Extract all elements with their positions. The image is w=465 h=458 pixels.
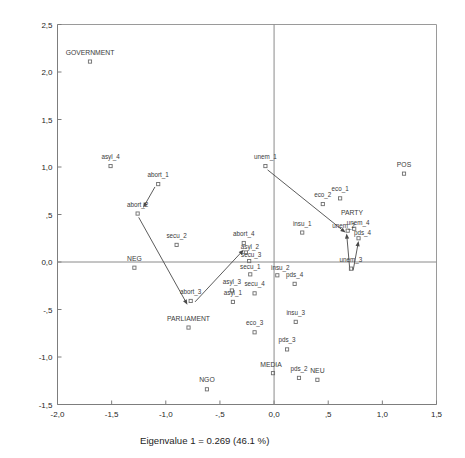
- zero-axis-lines: [58, 25, 437, 405]
- point-label-asyl_3: asyl_3: [223, 278, 242, 286]
- x-tick-label: ,5: [325, 410, 332, 419]
- x-axis-title: Eigenvalue 1 = 0.269 (46.1 %): [140, 435, 269, 446]
- axis-tick-labels: -2,0-1,5-1,0-,50,0,51,01,5-1,5-1,0-,50,0…: [39, 21, 443, 419]
- y-tick-label: -1,0: [39, 353, 53, 362]
- x-tick-label: 1,5: [431, 410, 443, 419]
- plot-frame: [58, 25, 437, 405]
- data-point-insu_3[interactable]: insu_3: [286, 309, 305, 324]
- axis-ticks: [58, 25, 437, 405]
- y-tick-label: -,5: [43, 306, 53, 315]
- point-label-secu_4: secu_4: [244, 280, 265, 288]
- y-tick-label: -1,5: [39, 401, 53, 410]
- data-point-eco_2[interactable]: eco_2: [314, 191, 332, 206]
- point-label-secu_3: secu_3: [241, 251, 262, 259]
- x-tick-label: 0,0: [269, 410, 281, 419]
- point-label-eco_1: eco_1: [332, 185, 350, 193]
- data-point-MEDIA[interactable]: MEDIA: [260, 361, 282, 375]
- point-label-NGO: NGO: [199, 376, 214, 383]
- point-label-GOVERNMENT: GOVERNMENT: [66, 49, 115, 56]
- arrow-unem_3-to-unem_2: [345, 234, 350, 271]
- x-tick-label: -,5: [215, 410, 225, 419]
- point-label-asyl_1: asyl_1: [224, 289, 243, 297]
- data-point-pds_4[interactable]: pds_4: [286, 271, 304, 286]
- point-label-PARLIAMENT: PARLIAMENT: [167, 315, 210, 322]
- x-tick-label: -2,0: [51, 410, 65, 419]
- x-tick-label: -1,0: [159, 410, 173, 419]
- point-label-MEDIA: MEDIA: [260, 361, 282, 368]
- point-label-NEU: NEU: [310, 367, 324, 374]
- point-label-asyl_2: asyl_2: [241, 243, 260, 251]
- data-point-abort_3[interactable]: abort_3: [180, 288, 202, 303]
- point-label-abort_3: abort_3: [180, 288, 202, 296]
- data-point-abort_2[interactable]: abort_2: [127, 201, 149, 216]
- x-tick-label: 1,0: [377, 410, 389, 419]
- data-point-PARTY[interactable]: PARTY: [341, 209, 363, 216]
- data-points: GOVERNMENTasyl_4abort_1abort_2secu_2NEGa…: [66, 49, 412, 391]
- point-label-POS: POS: [397, 161, 412, 168]
- data-point-NEU[interactable]: NEU: [310, 367, 324, 382]
- point-label-eco_2: eco_2: [314, 191, 332, 199]
- data-point-secu_3[interactable]: secu_3: [241, 251, 262, 263]
- point-label-pds_4b: pds_4: [354, 229, 372, 237]
- data-point-abort_1[interactable]: abort_1: [148, 171, 170, 186]
- data-point-POS[interactable]: POS: [397, 161, 412, 176]
- point-label-insu_1: insu_1: [293, 220, 312, 228]
- point-label-abort_4: abort_4: [233, 230, 255, 238]
- point-label-secu_2: secu_2: [166, 232, 187, 240]
- data-point-secu_1[interactable]: secu_1: [240, 263, 261, 276]
- data-point-pds_4b[interactable]: pds_4: [354, 229, 372, 240]
- y-tick-label: 1,0: [41, 163, 53, 172]
- correspondence-analysis-figure: GOVERNMENTasyl_4abort_1abort_2secu_2NEGa…: [0, 0, 465, 458]
- data-point-eco_1[interactable]: eco_1: [332, 185, 350, 200]
- data-point-asyl_1[interactable]: asyl_1: [224, 289, 243, 304]
- point-label-secu_1: secu_1: [240, 263, 261, 271]
- point-label-unem_2: unem_2: [332, 222, 355, 230]
- data-point-GOVERNMENT[interactable]: GOVERNMENT: [66, 49, 115, 64]
- point-label-abort_1: abort_1: [148, 171, 170, 179]
- point-label-abort_2: abort_2: [127, 201, 149, 209]
- y-tick-label: 2,5: [41, 21, 53, 30]
- point-label-unem_3: unem_3: [340, 256, 363, 264]
- point-label-pds_3: pds_3: [278, 336, 296, 344]
- data-point-insu_1[interactable]: insu_1: [293, 220, 312, 235]
- scatter-plot-canvas: GOVERNMENTasyl_4abort_1abort_2secu_2NEGa…: [0, 0, 465, 458]
- point-label-insu_3: insu_3: [286, 309, 305, 317]
- x-tick-label: -1,5: [105, 410, 119, 419]
- y-tick-label: ,5: [46, 211, 53, 220]
- point-label-asyl_4: asyl_4: [101, 153, 120, 161]
- data-point-secu_4[interactable]: secu_4: [244, 280, 265, 295]
- point-label-unem_1: unem_1: [254, 153, 277, 161]
- y-tick-label: 2,0: [41, 68, 53, 77]
- point-label-NEG: NEG: [127, 255, 142, 262]
- data-point-pds_3[interactable]: pds_3: [278, 336, 296, 351]
- data-point-PARLIAMENT[interactable]: PARLIAMENT: [167, 315, 210, 330]
- data-point-eco_3[interactable]: eco_3: [246, 319, 264, 334]
- data-point-pds_2[interactable]: pds_2: [290, 365, 308, 380]
- point-label-pds_4: pds_4: [286, 271, 304, 279]
- point-label-eco_3: eco_3: [246, 319, 264, 327]
- y-tick-label: 0,0: [41, 258, 53, 267]
- point-label-PARTY: PARTY: [341, 209, 363, 216]
- data-point-secu_2[interactable]: secu_2: [166, 232, 187, 247]
- data-point-asyl_4[interactable]: asyl_4: [101, 153, 120, 168]
- data-point-NGO[interactable]: NGO: [199, 376, 214, 391]
- y-tick-label: 1,5: [41, 116, 53, 125]
- point-label-pds_2: pds_2: [290, 365, 308, 373]
- data-point-unem_3[interactable]: unem_3: [340, 256, 363, 271]
